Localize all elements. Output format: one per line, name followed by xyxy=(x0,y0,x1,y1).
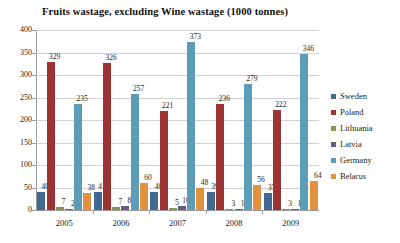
bar-group: 372223134664 xyxy=(262,30,319,210)
legend-item-germany[interactable]: Germany xyxy=(331,152,397,168)
x-axis-tick-label: 2005 xyxy=(36,218,92,228)
bar-group: 4022151037348 xyxy=(149,30,206,210)
y-axis-tick-label: 50 xyxy=(2,183,32,192)
bar-poland-2005 xyxy=(47,62,55,210)
chart-title: Fruits wastage, excluding Wine wastage (… xyxy=(0,6,330,17)
bar-value-label: 279 xyxy=(241,74,263,83)
plot-area: 4032972235384132678257604022151037348392… xyxy=(36,30,319,210)
bar-value-label: 64 xyxy=(307,171,329,180)
legend-label: Latvia xyxy=(340,136,362,152)
y-axis-tick-label: 200 xyxy=(2,115,32,124)
bar-value-label: 222 xyxy=(270,100,292,109)
bar-value-label: 346 xyxy=(297,44,319,53)
bar-poland-2008 xyxy=(216,104,224,210)
bar-value-label: 326 xyxy=(100,53,122,62)
bar-lithuania-2009 xyxy=(282,209,290,210)
x-axis-tick-label: 2006 xyxy=(93,218,149,228)
bar-sweden-2007 xyxy=(150,192,158,210)
y-axis-tick-label: 100 xyxy=(2,160,32,169)
bar-belarus-2009 xyxy=(310,181,318,210)
bar-sweden-2008 xyxy=(207,192,215,210)
legend-swatch-poland-icon xyxy=(331,110,336,115)
bar-value-label: 373 xyxy=(184,32,206,41)
bar-latvia-2005 xyxy=(65,209,73,210)
legend-item-poland[interactable]: Poland xyxy=(331,104,397,120)
legend-item-latvia[interactable]: Latvia xyxy=(331,136,397,152)
legend-swatch-germany-icon xyxy=(331,158,336,163)
bar-chart: Fruits wastage, excluding Wine wastage (… xyxy=(0,0,400,243)
x-axis-tick-label: 2008 xyxy=(206,218,262,228)
y-axis-tick-label: 350 xyxy=(2,48,32,57)
legend-label: Germany xyxy=(340,152,372,168)
bar-sweden-2006 xyxy=(94,192,102,210)
bar-lithuania-2008 xyxy=(225,209,233,210)
bar-belarus-2007 xyxy=(196,188,204,210)
gridline xyxy=(36,210,319,211)
bar-germany-2009 xyxy=(300,54,308,210)
bar-value-label: 221 xyxy=(157,101,179,110)
bar-germany-2008 xyxy=(244,84,252,210)
legend-swatch-belarus-icon xyxy=(331,174,336,179)
legend-item-lithuania[interactable]: Lithuania xyxy=(331,120,397,136)
bar-germany-2006 xyxy=(131,94,139,210)
y-axis-tick-label: 400 xyxy=(2,25,32,34)
y-axis-tick-label: 300 xyxy=(2,70,32,79)
legend-swatch-latvia-icon xyxy=(331,142,336,147)
bar-lithuania-2007 xyxy=(169,208,177,210)
bar-latvia-2009 xyxy=(291,209,299,210)
bar-latvia-2008 xyxy=(235,209,243,210)
y-axis-tick-label: 150 xyxy=(2,138,32,147)
bar-germany-2005 xyxy=(74,104,82,210)
bar-value-label: 235 xyxy=(71,94,93,103)
y-axis-tick-label: 250 xyxy=(2,93,32,102)
bar-latvia-2007 xyxy=(178,206,186,211)
bar-group: 392363127956 xyxy=(206,30,263,210)
bar-sweden-2009 xyxy=(264,193,272,210)
y-axis-tick-label: 0 xyxy=(2,205,32,214)
legend-item-belarus[interactable]: Belarus xyxy=(331,168,397,184)
legend-label: Lithuania xyxy=(340,120,373,136)
chart-legend: SwedenPolandLithuaniaLatviaGermanyBelaru… xyxy=(331,88,397,184)
bar-value-label: 257 xyxy=(128,84,150,93)
bar-group: 413267825760 xyxy=(93,30,150,210)
legend-swatch-sweden-icon xyxy=(331,94,336,99)
bar-value-label: 329 xyxy=(44,52,66,61)
x-axis-tick-label: 2009 xyxy=(263,218,319,228)
bar-poland-2009 xyxy=(273,110,281,210)
bar-latvia-2006 xyxy=(121,206,129,210)
bar-poland-2007 xyxy=(160,111,168,210)
legend-item-sweden[interactable]: Sweden xyxy=(331,88,397,104)
bar-sweden-2005 xyxy=(37,192,45,210)
bar-lithuania-2006 xyxy=(112,207,120,210)
legend-label: Belarus xyxy=(340,168,366,184)
legend-label: Sweden xyxy=(340,88,367,104)
bar-poland-2006 xyxy=(103,63,111,210)
legend-label: Poland xyxy=(340,104,364,120)
bar-value-label: 236 xyxy=(213,94,235,103)
bar-group: 403297223538 xyxy=(36,30,93,210)
legend-swatch-lithuania-icon xyxy=(331,126,336,131)
bar-belarus-2005 xyxy=(83,193,91,210)
x-axis-tick-label: 2007 xyxy=(150,218,206,228)
